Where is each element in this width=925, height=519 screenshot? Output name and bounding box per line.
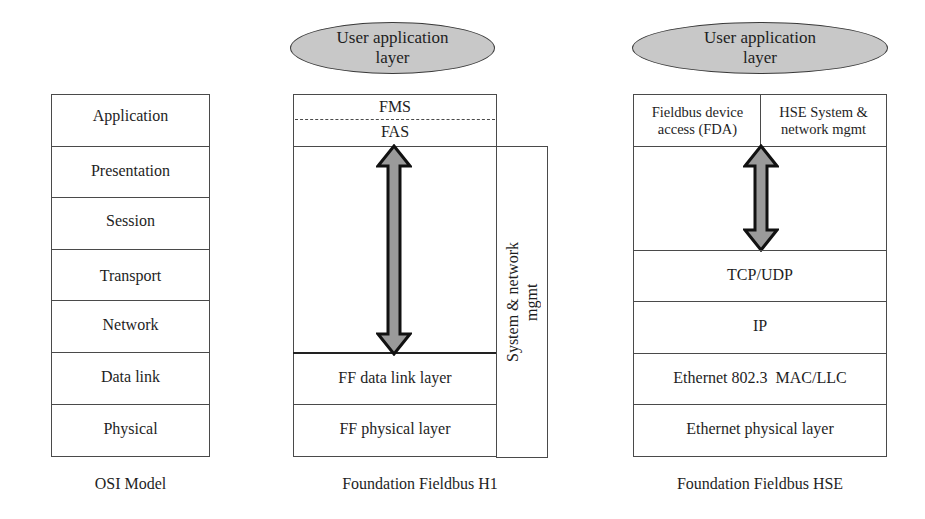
osi-layer-application: Application: [51, 94, 210, 138]
h1-user-application-label: User application layer: [328, 28, 458, 69]
hse-ethernet-physical-layer: Ethernet physical layer: [633, 404, 887, 454]
h1-data-link-layer: FF data link layer: [293, 353, 497, 403]
hse-tcp-udp: TCP/UDP: [633, 250, 887, 300]
h1-physical-layer: FF physical layer: [293, 404, 497, 454]
h1-user-application-layer: User application layer: [290, 22, 495, 74]
hse-user-application-label: User application layer: [695, 28, 825, 69]
hse-ip: IP: [633, 301, 887, 351]
h1-fms: FMS: [293, 96, 497, 118]
osi-layer-data-link: Data link: [51, 352, 210, 402]
h1-mgmt-label: System & network mgmt: [496, 146, 548, 458]
h1-caption: Foundation Fieldbus H1: [300, 475, 540, 493]
hse-double-arrow-icon: [743, 144, 779, 252]
hse-system-network-mgmt: HSE System & network mgmt: [761, 96, 886, 146]
hse-user-application-layer: User application layer: [632, 22, 888, 74]
osi-layer-presentation: Presentation: [51, 146, 210, 197]
osi-layer-physical: Physical: [51, 404, 210, 454]
osi-layer-network: Network: [51, 300, 210, 350]
hse-ethernet-mac-llc: Ethernet 802.3 MAC/LLC: [633, 353, 887, 403]
osi-model-caption: OSI Model: [51, 475, 210, 493]
h1-double-arrow-icon: [376, 144, 412, 356]
hse-fda: Fieldbus device access (FDA): [635, 96, 760, 146]
h1-fas: FAS: [293, 120, 497, 144]
osi-layer-transport: Transport: [51, 249, 210, 303]
hse-caption: Foundation Fieldbus HSE: [633, 475, 887, 493]
osi-layer-session: Session: [51, 197, 210, 245]
